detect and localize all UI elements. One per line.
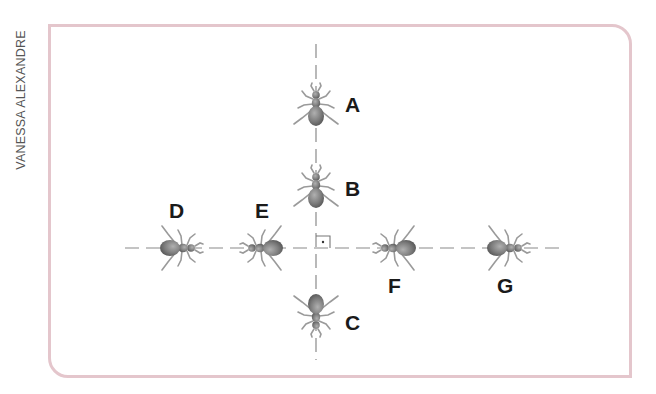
ant-g [487,226,530,270]
ant-position-diagram: A B C D E F G [0,0,656,394]
label-e: E [255,199,269,222]
ant-e [240,226,283,270]
label-d: D [169,199,184,222]
label-c: C [345,311,360,334]
label-g: G [497,274,513,297]
label-b: B [345,177,360,200]
label-a: A [345,93,360,116]
label-f: F [388,274,401,297]
right-angle-marker [316,236,330,248]
